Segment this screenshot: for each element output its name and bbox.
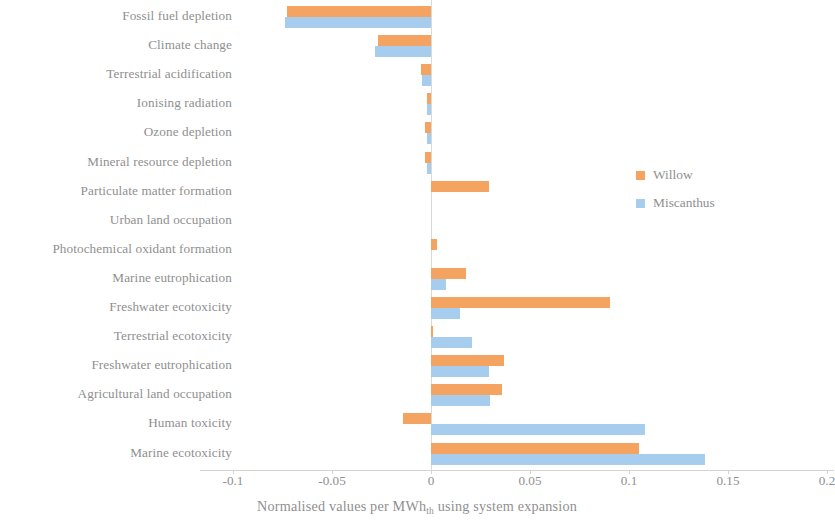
chart-legend: WillowMiscanthus xyxy=(636,161,786,217)
x-tick-mark xyxy=(629,470,630,474)
bar-willow xyxy=(403,413,431,424)
bar-willow xyxy=(425,122,431,133)
x-axis-title-subscript: th xyxy=(426,506,434,516)
x-axis-ticks: -0.1-0.0500.050.10.150.2 xyxy=(0,473,834,495)
bar-willow xyxy=(421,64,431,75)
bar-miscanthus xyxy=(375,46,431,57)
bar-miscanthus xyxy=(427,133,431,144)
legend-item[interactable]: Miscanthus xyxy=(636,189,786,217)
bar-willow xyxy=(425,152,431,163)
bar-willow xyxy=(431,268,466,279)
bar-miscanthus xyxy=(285,17,431,28)
x-axis-line xyxy=(200,470,834,471)
bar-willow xyxy=(431,326,433,337)
bar-miscanthus xyxy=(431,454,705,465)
bar-willow xyxy=(431,384,502,395)
bar-miscanthus xyxy=(431,279,446,290)
x-tick-label: 0.05 xyxy=(518,473,541,489)
legend-label: Willow xyxy=(653,167,693,183)
bar-miscanthus xyxy=(422,75,431,86)
bar-willow xyxy=(431,355,504,366)
bar-miscanthus xyxy=(427,104,431,115)
legend-item[interactable]: Willow xyxy=(636,161,786,189)
bar-miscanthus xyxy=(431,308,460,319)
bar-miscanthus xyxy=(431,424,645,435)
x-tick-mark xyxy=(431,470,432,474)
x-tick-mark xyxy=(332,470,333,474)
legend-swatch-icon xyxy=(636,199,645,208)
plot-area xyxy=(0,0,834,470)
x-axis-title-main: Normalised values per MWh xyxy=(257,498,426,514)
bar-willow xyxy=(431,443,639,454)
x-tick-label: -0.1 xyxy=(223,473,244,489)
x-tick-label: 0.15 xyxy=(716,473,739,489)
bar-miscanthus xyxy=(431,337,472,348)
x-tick-label: -0.05 xyxy=(318,473,345,489)
x-tick-label: 0.2 xyxy=(819,473,835,489)
bar-miscanthus xyxy=(431,366,489,377)
bar-willow xyxy=(431,239,437,250)
bar-willow xyxy=(431,297,610,308)
x-tick-mark xyxy=(728,470,729,474)
bar-willow xyxy=(427,93,431,104)
legend-swatch-icon xyxy=(636,171,645,180)
bar-miscanthus xyxy=(431,395,490,406)
x-axis-title: Normalised values per MWhth using system… xyxy=(0,498,834,515)
x-tick-mark xyxy=(827,470,828,474)
x-axis-title-tail: using system expansion xyxy=(434,498,577,514)
bar-willow xyxy=(287,6,431,17)
bar-willow xyxy=(431,181,489,192)
x-tick-mark xyxy=(233,470,234,474)
bar-willow xyxy=(378,35,431,46)
legend-label: Miscanthus xyxy=(653,195,715,211)
x-tick-mark xyxy=(530,470,531,474)
x-tick-label: 0 xyxy=(428,473,435,489)
bar-miscanthus xyxy=(427,163,431,174)
x-tick-label: 0.1 xyxy=(621,473,637,489)
